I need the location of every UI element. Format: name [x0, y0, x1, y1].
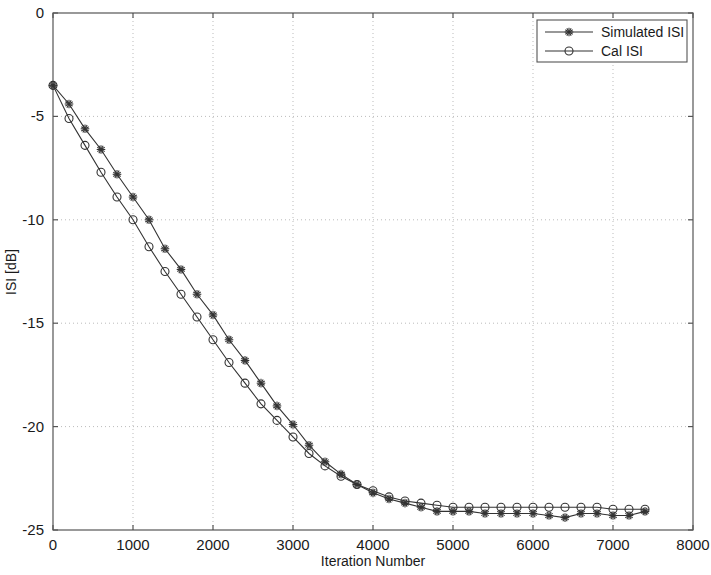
y-tick-label: 0 — [36, 4, 44, 21]
y-tick-label: -10 — [22, 211, 44, 228]
y-tick-label: -15 — [22, 314, 44, 331]
x-tick-label: 4000 — [356, 536, 389, 553]
y-tick-label: -25 — [22, 521, 44, 538]
x-tick-label: 8000 — [676, 536, 709, 553]
x-tick-label: 5000 — [436, 536, 469, 553]
x-axis-title: Iteration Number — [321, 553, 426, 569]
figure-container: 0100020003000400050006000700080000-5-10-… — [0, 0, 711, 575]
legend-label-2: Cal ISI — [601, 43, 643, 59]
y-axis-title: ISI [dB] — [3, 249, 19, 295]
x-tick-label: 3000 — [276, 536, 309, 553]
chart-legend: Simulated ISICal ISI — [537, 20, 687, 62]
y-tick-label: -20 — [22, 418, 44, 435]
x-tick-label: 7000 — [596, 536, 629, 553]
x-tick-label: 0 — [49, 536, 57, 553]
x-tick-label: 6000 — [516, 536, 549, 553]
legend-label-1: Simulated ISI — [601, 24, 684, 40]
x-tick-label: 2000 — [196, 536, 229, 553]
x-tick-label: 1000 — [116, 536, 149, 553]
y-tick-label: -5 — [31, 107, 44, 124]
isi-convergence-chart: 0100020003000400050006000700080000-5-10-… — [0, 0, 711, 575]
